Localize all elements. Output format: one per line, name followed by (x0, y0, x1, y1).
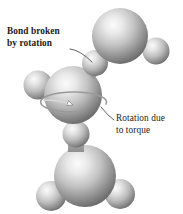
label-bond-broken: Bond broken by rotation (7, 26, 60, 49)
atom-middle-small-bottom (63, 121, 90, 148)
molecule-rotation-figure: Bond broken by rotation Rotation due to … (0, 0, 183, 214)
molecule-group-top (82, 8, 170, 76)
label-bond-broken-line1: Bond broken (7, 26, 60, 38)
label-rotation-torque-line1: Rotation due (116, 113, 165, 125)
leader-line-rotation-torque (101, 107, 114, 120)
label-rotation-torque-line2: to torque (116, 125, 165, 137)
atom-bottom-large (54, 145, 116, 207)
atom-top-large (92, 8, 148, 64)
label-rotation-due-to-torque: Rotation due to torque (116, 113, 165, 136)
label-bond-broken-line2: by rotation (7, 38, 60, 50)
molecule-group-bottom (36, 145, 135, 211)
